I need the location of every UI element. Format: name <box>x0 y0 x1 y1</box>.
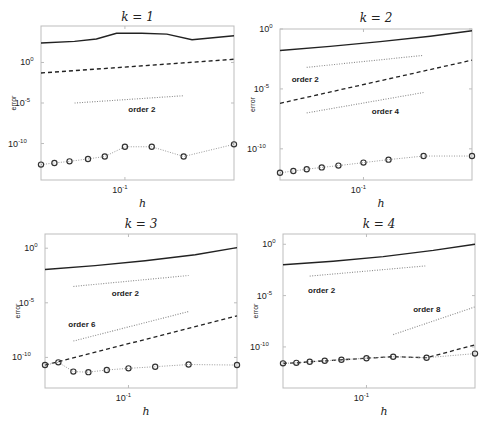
y-tick-label: 10-5 <box>254 83 270 94</box>
series-circles <box>45 362 237 372</box>
x-tick-label: 10-1 <box>116 392 132 403</box>
y-tick-label: 10-5 <box>15 97 31 108</box>
series-ref-order-2 <box>73 276 188 287</box>
chart-title: k = 2 <box>360 11 393 25</box>
chart-title: k = 3 <box>125 217 158 231</box>
figure: k = 110010-510-1010-1errorhorder 2k = 21… <box>0 0 489 422</box>
y-axis-label: error <box>252 303 259 318</box>
series-circles <box>41 144 234 164</box>
x-axis-label: h <box>380 405 387 418</box>
chart-panel-2: k = 210010-510-1010-1errorhorder 2order … <box>247 11 474 210</box>
y-tick-label: 10-5 <box>19 297 35 308</box>
y-tick-label: 100 <box>262 238 276 249</box>
data-marker-circle <box>102 154 107 159</box>
series-ref-order-2 <box>75 96 184 103</box>
plot-frame <box>41 26 234 180</box>
order-annotation: order 2 <box>128 105 156 114</box>
data-marker-circle <box>56 360 61 365</box>
order-annotation: order 8 <box>413 305 441 314</box>
series-solid <box>45 248 237 270</box>
x-axis-label: h <box>142 405 149 418</box>
chart-panel-1: k = 110010-510-1010-1errorhorder 2 <box>8 10 236 210</box>
plot-frame <box>45 234 237 388</box>
y-axis-label: error <box>14 303 21 318</box>
x-axis-label: h <box>377 197 384 210</box>
y-axis-label: error <box>249 96 256 111</box>
chart-title: k = 1 <box>121 10 154 24</box>
y-tick-label: 100 <box>20 56 34 67</box>
series-ref-order-2 <box>310 266 427 276</box>
y-tick-label: 10-10 <box>247 143 266 154</box>
order-annotation: order 6 <box>68 320 96 329</box>
y-tick-label: 10-5 <box>257 290 273 301</box>
order-annotation: order 2 <box>112 289 140 298</box>
y-tick-label: 100 <box>24 242 38 253</box>
y-tick-label: 10-10 <box>12 351 31 362</box>
y-tick-label: 10-10 <box>250 341 269 352</box>
chart-panel-4: k = 410010-510-1010-1errorhorder 2order … <box>250 217 477 418</box>
x-axis-label: h <box>139 197 146 210</box>
series-solid <box>41 33 234 43</box>
order-annotation: order 4 <box>372 107 400 116</box>
x-tick-label: 10-1 <box>354 392 370 403</box>
x-tick-label: 10-1 <box>351 184 367 195</box>
series-ref-order-4 <box>307 93 424 113</box>
series-solid <box>283 244 475 265</box>
order-annotation: order 2 <box>308 286 336 295</box>
series-ref-order-2 <box>307 55 424 67</box>
y-tick-label: 10-10 <box>8 138 27 149</box>
series-dashed <box>41 59 234 73</box>
series-solid <box>280 31 472 51</box>
chart-title: k = 4 <box>363 217 396 231</box>
data-marker-circle <box>181 154 186 159</box>
order-annotation: order 2 <box>292 75 320 84</box>
x-tick-label: 10-1 <box>112 184 128 195</box>
y-tick-label: 100 <box>259 23 273 34</box>
y-axis-label: error <box>10 95 17 110</box>
plot-frame <box>280 29 472 180</box>
data-marker-circle <box>149 144 154 149</box>
chart-panel-3: k = 310010-510-1010-1errorhorder 2order … <box>12 217 239 418</box>
